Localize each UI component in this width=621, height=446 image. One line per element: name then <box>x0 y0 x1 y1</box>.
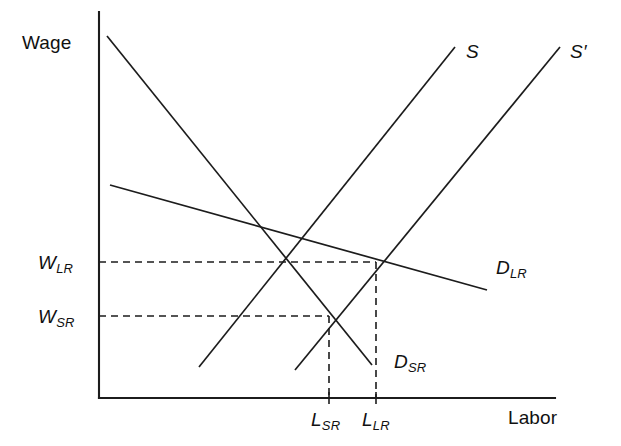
curve-supply <box>199 47 455 367</box>
labor-short-run-label: LSR <box>311 410 340 429</box>
curves-group <box>107 36 560 370</box>
curve-label-demand-long-run: DLR <box>496 258 527 277</box>
demand-long-run-subscript: LR <box>510 266 527 281</box>
demand-short-run-base: D <box>394 351 408 372</box>
curve-label-supply: S <box>466 42 479 61</box>
guide-lines-group <box>99 262 376 398</box>
curve-label-supply-shifted: S′ <box>570 42 586 61</box>
wage-long-run-label: WLR <box>38 253 73 272</box>
diagram-canvas <box>0 0 621 446</box>
supply-shifted-prime: ′ <box>583 41 587 62</box>
labor-short-run-base: L <box>311 409 322 430</box>
labor-market-diagram: Wage Labor WLR WSR LSR LLR S S′ DLR DSR <box>0 0 621 446</box>
axes-group <box>99 12 555 398</box>
wage-long-run-base: W <box>38 252 56 273</box>
labor-short-run-subscript: SR <box>322 418 340 433</box>
x-axis-label: Labor <box>508 408 557 427</box>
labor-long-run-base: L <box>362 409 373 430</box>
supply-shifted-base: S <box>570 41 583 62</box>
wage-short-run-label: WSR <box>38 307 75 326</box>
wage-short-run-subscript: SR <box>56 315 74 330</box>
labor-long-run-subscript: LR <box>373 418 390 433</box>
wage-short-run-base: W <box>38 306 56 327</box>
supply-base: S <box>466 41 479 62</box>
curve-label-demand-short-run: DSR <box>394 352 426 371</box>
demand-short-run-subscript: SR <box>408 360 426 375</box>
wage-long-run-subscript: LR <box>56 261 73 276</box>
y-axis-label: Wage <box>22 33 71 52</box>
labor-long-run-label: LLR <box>362 410 390 429</box>
demand-long-run-base: D <box>496 257 510 278</box>
curve-supply-shifted <box>295 47 560 370</box>
